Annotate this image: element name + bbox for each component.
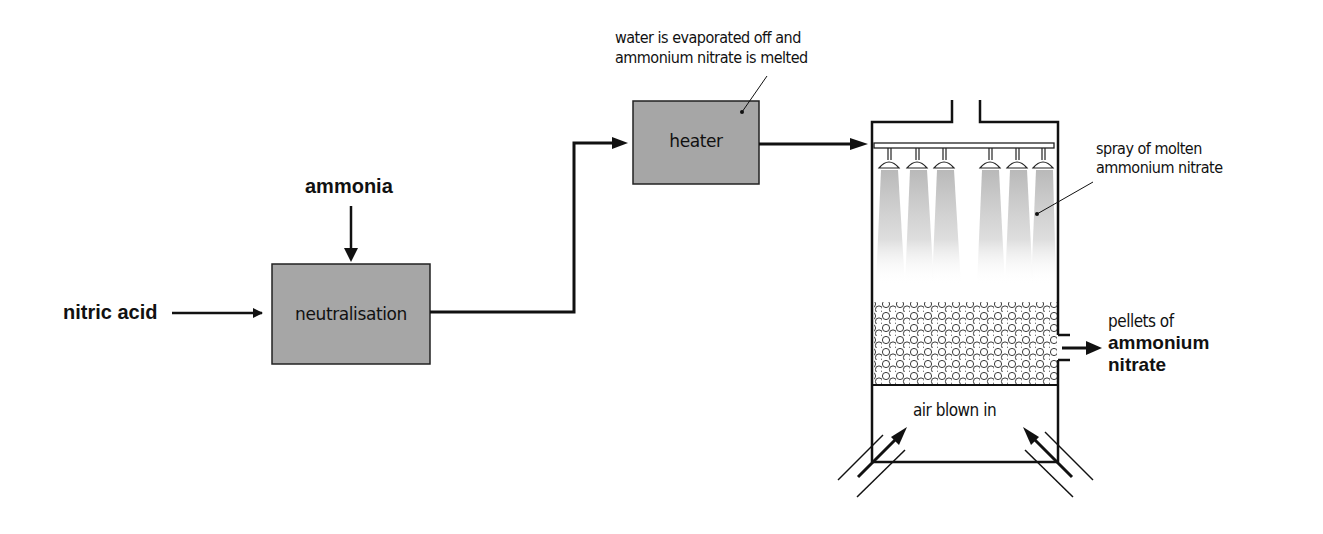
product-label-line3: nitrate: [1108, 355, 1166, 375]
spray-cones: [876, 170, 1056, 285]
pipe-to-tower: [759, 138, 868, 150]
air-blown-in-label: air blown in: [913, 402, 996, 420]
process-diagram: [0, 0, 1323, 534]
spray-label-line1: spray of molten: [1096, 141, 1202, 158]
pellet-bed: [872, 302, 1058, 385]
spray-bar: [874, 143, 1054, 148]
product-label-line2: ammonium: [1108, 333, 1209, 353]
nitric-acid-label: nitric acid: [63, 302, 157, 323]
neutralisation-label: neutralisation: [272, 264, 430, 364]
pipe-to-heater: [430, 137, 628, 312]
heater-note-line1: water is evaporated off and: [615, 30, 801, 47]
ammonia-arrow: [344, 206, 358, 262]
ammonia-label: ammonia: [305, 176, 393, 197]
spray-nozzles: [879, 148, 1053, 168]
product-outlet-arrow: [1062, 341, 1102, 355]
product-label-line1: pellets of: [1108, 313, 1174, 331]
heater-note-line2: ammonium nitrate is melted: [615, 50, 808, 67]
spray-label-line2: ammonium nitrate: [1096, 160, 1223, 177]
heater-label: heater: [633, 101, 759, 181]
